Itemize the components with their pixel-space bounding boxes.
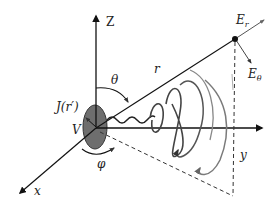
r-label: r — [154, 63, 160, 75]
e-r-subscript: r — [245, 20, 249, 29]
x-axis — [20, 128, 96, 193]
spherical-radiation-diagram — [0, 0, 277, 206]
e-r-main: E — [236, 13, 245, 27]
z-axis-label: Z — [106, 16, 114, 28]
theta-arc — [96, 88, 128, 102]
field-loop-2 — [166, 89, 183, 157]
source-volume — [83, 105, 107, 149]
source-current-label: J(r′) — [56, 101, 79, 113]
e-theta-label: Eθ — [248, 68, 262, 83]
e-theta-subscript: θ — [257, 74, 262, 83]
observation-point — [232, 36, 238, 42]
e-r-label: Er — [236, 14, 249, 29]
faint-tick — [232, 74, 233, 90]
field-loop-5 — [190, 70, 213, 140]
theta-label: θ — [111, 74, 118, 86]
e-theta-arrow — [236, 40, 251, 63]
phi-arc — [82, 148, 114, 154]
y-axis-label: y — [240, 149, 247, 161]
projection-ground — [100, 132, 233, 196]
projection-vertical — [233, 42, 235, 196]
field-loop-3 — [177, 81, 203, 157]
e-theta-main: E — [248, 67, 257, 81]
volume-label: V — [72, 124, 81, 136]
wave-path — [107, 116, 155, 123]
x-axis-label: x — [34, 185, 41, 197]
phi-label: φ — [97, 158, 105, 170]
